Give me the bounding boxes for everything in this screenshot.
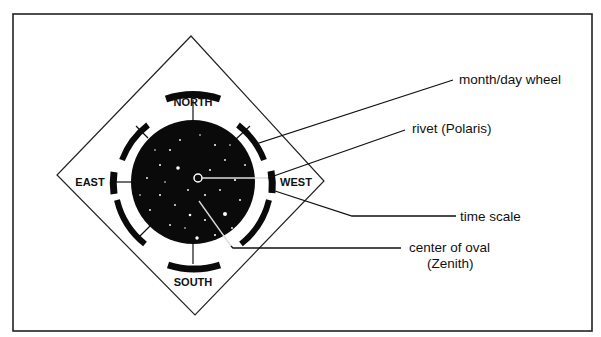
callout-zenith: (Zenith): [427, 256, 474, 271]
callout-rivet: rivet (Polaris): [412, 121, 492, 136]
callout-time-scale: time scale: [460, 209, 521, 224]
planisphere-diagram: NORTH SOUTH EAST WEST month/day wheel ri…: [0, 0, 601, 337]
label-west: WEST: [280, 176, 312, 188]
callout-month-day-wheel: month/day wheel: [459, 72, 561, 87]
callout-center-of-oval: center of oval: [409, 240, 490, 255]
star-field-disc: [131, 120, 255, 244]
label-east: EAST: [75, 176, 105, 188]
label-south: SOUTH: [174, 276, 213, 288]
label-north: NORTH: [173, 96, 212, 108]
figure-frame: [13, 14, 592, 331]
